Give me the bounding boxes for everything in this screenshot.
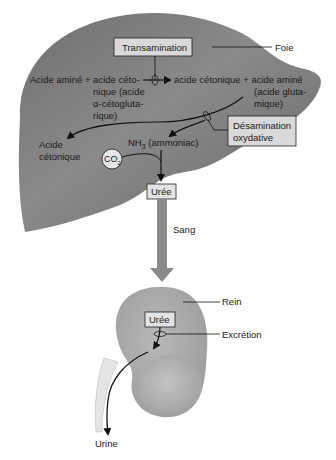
liver-label: Foie bbox=[275, 42, 293, 53]
excretion-label: Excrétion bbox=[222, 329, 262, 340]
kidney-label: Rein bbox=[222, 296, 242, 307]
blood-label: Sang bbox=[173, 224, 195, 235]
reaction-right-line1: acide cétonique + acide aminé bbox=[174, 74, 303, 85]
urine-label: Urine bbox=[95, 438, 118, 449]
reaction-left-line3: α-cétogluta- bbox=[93, 98, 143, 109]
blood-arrow-shaft bbox=[157, 199, 167, 269]
reaction-left-line2: nique (acide bbox=[93, 86, 145, 97]
kidney-lower-lobe bbox=[138, 355, 202, 415]
reaction-left-line4: rique) bbox=[93, 110, 117, 121]
reaction-right-line2: (acide gluta- bbox=[254, 86, 306, 97]
reaction-right-line3: mique) bbox=[254, 98, 283, 109]
urea-label-liver: Urée bbox=[151, 186, 172, 197]
desamination-label-line1: Désamination bbox=[233, 120, 291, 131]
ketoacid-product-line2: cétonique bbox=[39, 151, 80, 162]
transamination-label: Transamination bbox=[122, 42, 187, 53]
reaction-left-line1: Acide aminé + acide céto- bbox=[30, 74, 140, 85]
blood-arrow-head bbox=[150, 268, 174, 282]
urea-label-kidney: Urée bbox=[149, 314, 170, 325]
ketoacid-product-line1: Acide bbox=[39, 139, 63, 150]
urea-cycle-diagram: Foie Transamination Acide aminé + acide … bbox=[0, 0, 336, 460]
desamination-label-line2: oxydative bbox=[233, 132, 273, 143]
